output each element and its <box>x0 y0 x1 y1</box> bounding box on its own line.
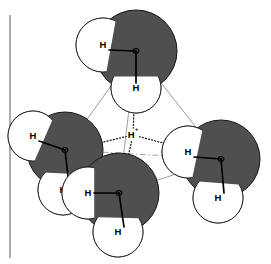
water-bottom-hydrogen-label-2: H <box>115 226 122 237</box>
water-right-oxygen-label: O <box>217 153 224 164</box>
central-proton-group: H+ <box>127 125 140 141</box>
water-top-oxygen-label: O <box>132 45 139 56</box>
water-top-hydrogen-label-2: H <box>133 82 140 93</box>
molecular-diagram-figure: OHHOHHOHHOHH H+ <box>0 0 271 264</box>
water-top-hydrogen-label-1: H <box>100 39 107 50</box>
water-left-hydrogen-label-1: H <box>30 130 37 141</box>
molecule-canvas: OHHOHHOHHOHH H+ <box>0 0 271 264</box>
water-left-oxygen-label: O <box>61 144 68 155</box>
water-bottom-oxygen-label: O <box>115 187 122 198</box>
water-right-hydrogen-label-2: H <box>215 192 222 203</box>
water-right-hydrogen-label-1: H <box>185 146 192 157</box>
water-bottom-hydrogen-label-1: H <box>85 187 92 198</box>
